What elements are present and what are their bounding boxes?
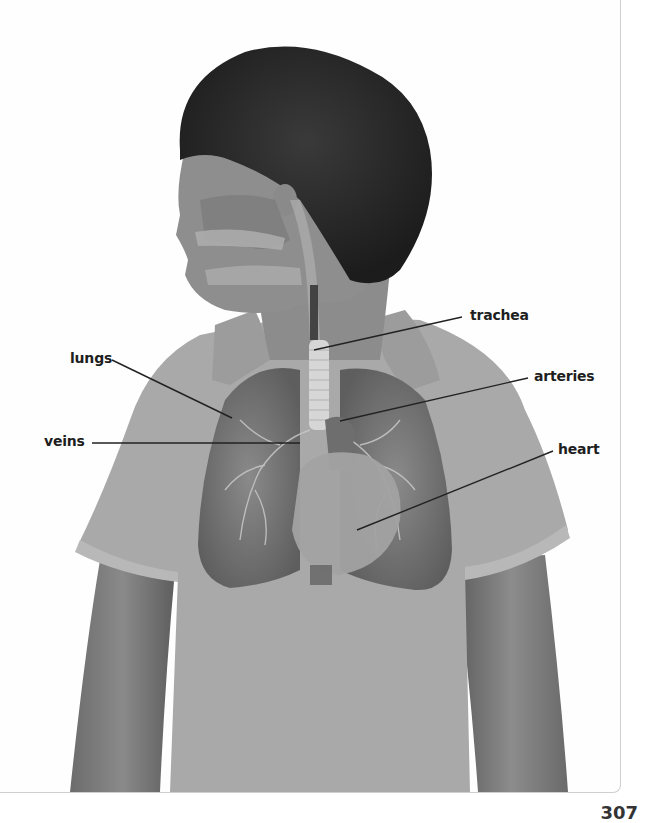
label-heart: heart (558, 441, 600, 457)
label-lungs: lungs (70, 350, 112, 366)
label-veins: veins (44, 433, 85, 449)
right-arm (455, 555, 568, 792)
label-arteries: arteries (534, 368, 594, 384)
left-arm (70, 560, 175, 792)
label-trachea: trachea (470, 307, 529, 323)
page-number: 307 (600, 802, 638, 823)
trachea (309, 340, 329, 430)
